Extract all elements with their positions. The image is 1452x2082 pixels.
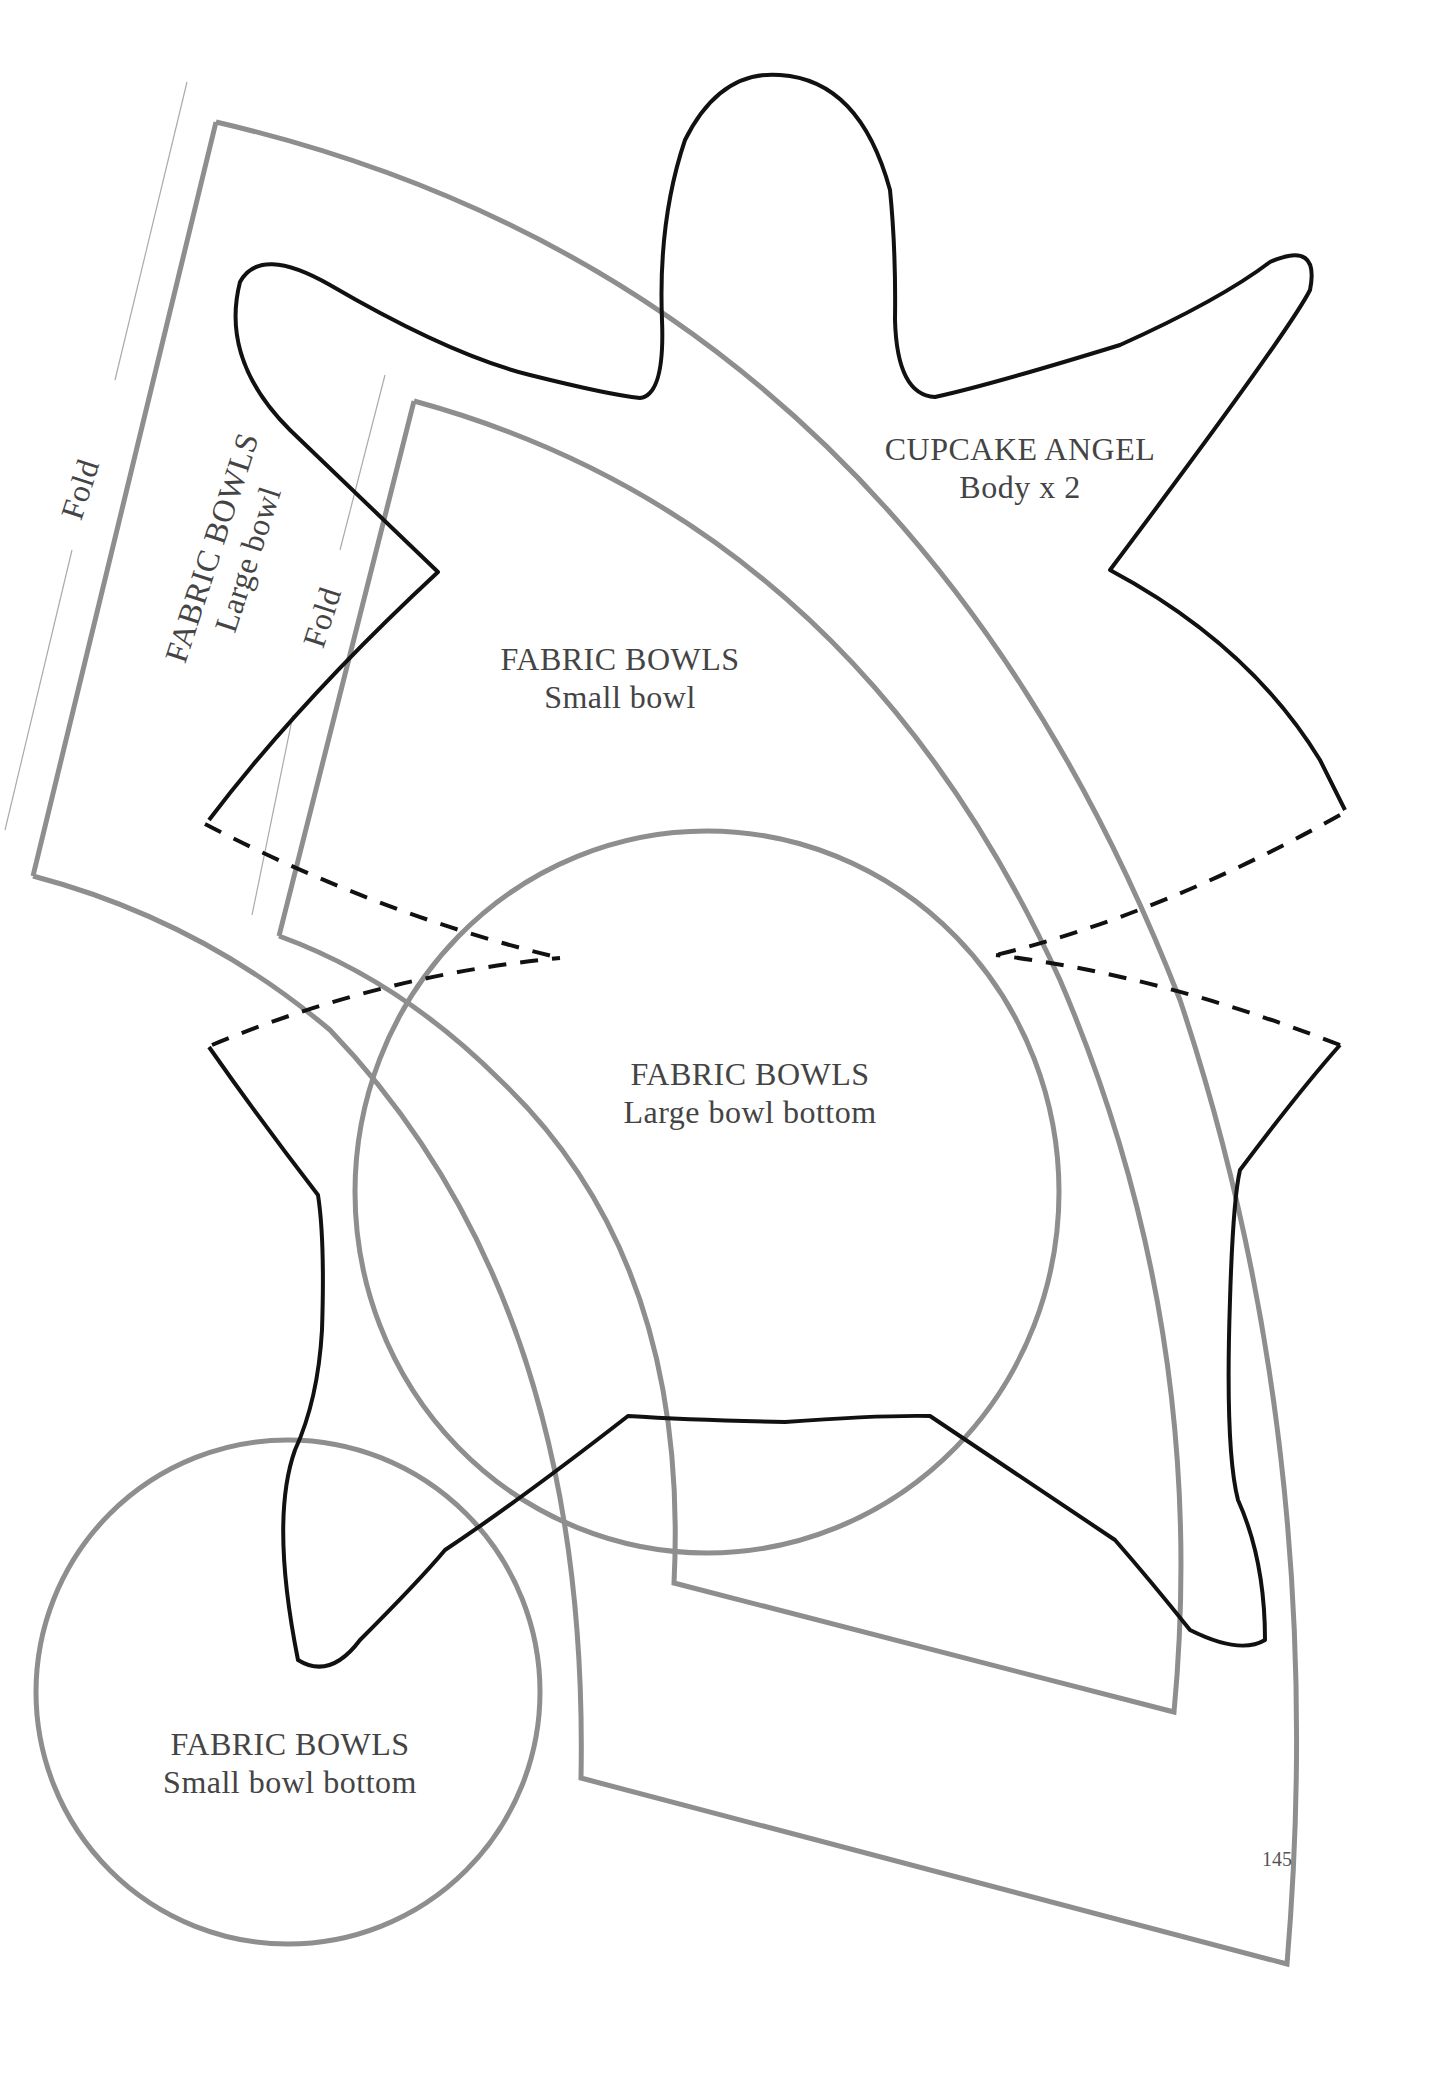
small-bowl-bottom-circle [36, 1440, 540, 1944]
large-bowl-bottom-circle [355, 831, 1059, 1553]
small-bowl-fold-line-bottom [252, 715, 293, 915]
large-bowl-bottom-label: FABRIC BOWLS Large bowl bottom [570, 1055, 930, 1132]
small-bowl-subtitle: Small bowl [460, 678, 780, 716]
cupcake-angel-title: CUPCAKE ANGEL [860, 430, 1180, 468]
cupcake-angel-label: CUPCAKE ANGEL Body x 2 [860, 430, 1180, 507]
angel-dashed-right-upper [996, 815, 1340, 955]
small-bowl-bottom-title: FABRIC BOWLS [110, 1725, 470, 1763]
large-bowl-fold-line-top [115, 82, 187, 380]
small-bowl-title: FABRIC BOWLS [460, 640, 780, 678]
angel-lower-outline [209, 1045, 1340, 1667]
small-bowl-bottom-subtitle: Small bowl bottom [110, 1763, 470, 1801]
large-bowl-fold-line-bottom [5, 550, 72, 830]
angel-dashed-left-upper [205, 824, 560, 958]
page-number: 145 [1262, 1848, 1292, 1871]
small-bowl-bottom-label: FABRIC BOWLS Small bowl bottom [110, 1725, 470, 1802]
large-bowl-outline [33, 122, 1297, 1964]
large-bowl-bottom-title: FABRIC BOWLS [570, 1055, 930, 1093]
cupcake-angel-subtitle: Body x 2 [860, 468, 1180, 506]
large-bowl-bottom-subtitle: Large bowl bottom [570, 1093, 930, 1131]
angel-dashed-left-lower [212, 958, 560, 1045]
small-bowl-fold-line-top [340, 375, 385, 550]
small-bowl-label: FABRIC BOWLS Small bowl [460, 640, 780, 717]
